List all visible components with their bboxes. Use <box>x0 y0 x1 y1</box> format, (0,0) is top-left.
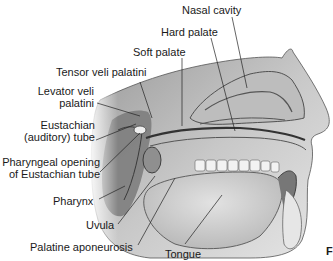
label-levator-veli-palatini: Levator veli palatini <box>20 85 94 109</box>
corner-mark: F <box>326 245 333 257</box>
label-tensor-veli-palatini: Tensor veli palatini <box>56 66 147 78</box>
label-tongue: Tongue <box>165 248 201 260</box>
label-hard-palate: Hard palate <box>161 26 218 38</box>
label-palatine-aponeurosis: Palatine aponeurosis <box>30 241 133 253</box>
label-soft-palate: Soft palate <box>133 46 186 58</box>
label-eustachian-tube: Eustachian (auditory) tube <box>10 119 95 143</box>
teeth <box>195 160 279 172</box>
label-pharynx: Pharynx <box>53 195 93 207</box>
label-pharyngeal-opening: Pharyngeal opening of Eustachian tube <box>0 156 100 180</box>
eustachian-opening-shape <box>134 126 146 134</box>
label-nasal-cavity: Nasal cavity <box>182 4 241 16</box>
label-uvula: Uvula <box>86 219 114 231</box>
uvula-shape <box>143 147 161 173</box>
